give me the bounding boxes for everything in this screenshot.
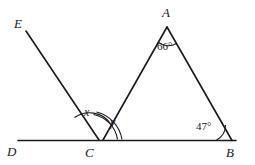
line-segment-EC [26, 31, 99, 140]
vertex-label-D: D [7, 145, 16, 158]
vertex-label-C: C [85, 146, 94, 159]
geometry-figure: E A D C B x y 66° 47° [0, 0, 255, 165]
angle-label-y: y [110, 116, 115, 128]
angle-label-x: x [84, 106, 89, 118]
angle-label-66-degrees: 66° [157, 41, 172, 52]
angle-arc-x [75, 113, 111, 124]
vertex-label-A: A [162, 6, 170, 19]
angle-label-47-degrees: 47° [196, 121, 211, 132]
vertex-label-E: E [14, 17, 22, 30]
vertex-label-B: B [226, 146, 234, 159]
geometry-canvas [0, 0, 255, 165]
